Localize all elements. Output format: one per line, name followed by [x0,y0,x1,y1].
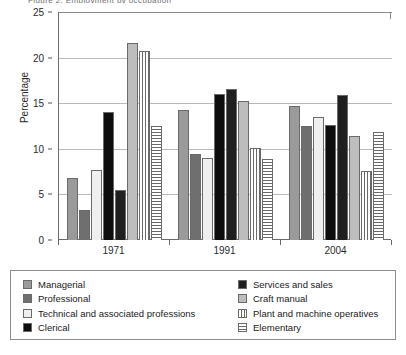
y-tick-label: 0 [18,235,52,246]
legend-item-label: Craft manual [253,293,307,304]
y-tick-label: 10 [18,143,52,154]
y-tick-mark [48,57,52,58]
bar [325,125,336,240]
bar [313,117,324,240]
legend-item-label: Clerical [38,322,70,333]
plot-area [58,12,391,240]
bar [214,94,225,240]
x-axis-tick-labels: 197119912004 [58,245,391,256]
bar [301,126,312,240]
bar-group [170,12,281,240]
bar [103,112,114,240]
bar [289,106,300,240]
y-tick-label: 20 [18,52,52,63]
chart-legend: ManagerialProfessionalTechnical and asso… [10,270,396,340]
legend-swatch-icon [23,323,32,332]
bar [79,210,90,240]
bar [139,51,150,240]
legend-item-label: Managerial [38,279,85,290]
legend-item-label: Plant and machine operatives [253,308,378,319]
y-tick-mark [48,240,52,241]
bar [115,190,126,240]
legend-column-right: Services and salesCraft manualPlant and … [238,277,393,335]
y-axis-tick-labels: 0510152025 [26,0,52,258]
legend-item[interactable]: Plant and machine operatives [238,306,393,321]
legend-swatch-icon [23,309,32,318]
bar-group [281,12,392,240]
legend-item-label: Technical and associated professions [38,308,195,319]
y-tick-mark [48,194,52,195]
y-tick-mark [48,103,52,104]
x-tick-label: 1971 [58,245,169,256]
legend-swatch-icon [238,294,247,303]
legend-item[interactable]: Elementary [238,321,393,336]
legend-item[interactable]: Clerical [23,321,238,336]
legend-item[interactable]: Services and sales [238,277,393,292]
legend-item[interactable]: Managerial [23,277,238,292]
bar [202,158,213,240]
bar-chart-figure: Figure 2: Employment by occupation Perce… [0,0,406,355]
bar-group [59,12,170,240]
legend-item-label: Professional [38,293,90,304]
bar [190,154,201,240]
y-tick-label: 5 [18,189,52,200]
bar [262,159,273,240]
x-axis: 197119912004 [58,240,391,260]
bar [337,95,348,240]
legend-item[interactable]: Craft manual [238,292,393,307]
legend-item-label: Elementary [253,322,301,333]
y-tick-label: 25 [18,7,52,18]
bar [349,136,360,240]
legend-item-label: Services and sales [253,279,333,290]
bar [238,101,249,240]
legend-column-left: ManagerialProfessionalTechnical and asso… [23,277,238,335]
bar [178,110,189,240]
x-tick-label: 1991 [169,245,280,256]
y-tick-label: 15 [18,98,52,109]
bar [67,178,78,240]
y-tick-mark [48,148,52,149]
bar [250,148,261,240]
legend-swatch-icon [23,294,32,303]
legend-swatch-icon [23,280,32,289]
bar-groups [59,12,392,240]
y-tick-mark [48,12,52,13]
bar [91,170,102,240]
bar [361,171,372,240]
plot-area-wrapper: Percentage 0510152025 197119912004 [0,0,406,258]
legend-swatch-icon [238,309,247,318]
legend-swatch-icon [238,323,247,332]
legend-item[interactable]: Professional [23,292,238,307]
bar [127,43,138,240]
bar [373,132,384,240]
bar [151,126,162,240]
bar [226,89,237,240]
legend-swatch-icon [238,280,247,289]
x-axis-separator [391,240,392,245]
x-tick-label: 2004 [280,245,391,256]
legend-item[interactable]: Technical and associated professions [23,306,238,321]
